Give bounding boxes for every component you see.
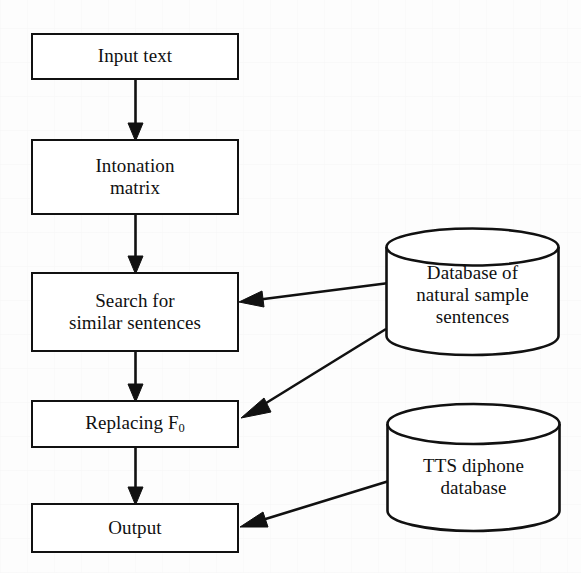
node-search-similar-sentences-label: Search for similar sentences xyxy=(69,290,201,334)
edge-input-to-intonation xyxy=(128,80,143,141)
node-replacing-f0-label: Replacing F0 xyxy=(85,412,185,436)
node-search-similar-sentences[interactable]: Search for similar sentences xyxy=(31,272,239,352)
flowchart-canvas: Input text Intonation matrix Search for … xyxy=(0,0,581,573)
node-input-text-label: Input text xyxy=(98,45,172,67)
node-input-text[interactable]: Input text xyxy=(31,33,239,80)
node-replacing-f0[interactable]: Replacing F0 xyxy=(31,400,239,448)
node-database-natural-sample-sentences[interactable]: Database of natural sample sentences xyxy=(384,228,561,355)
node-intonation-matrix-label: Intonation matrix xyxy=(95,155,174,199)
edge-sentencedb-to-search xyxy=(239,283,389,307)
node-tts-diphone-database-label: TTS diphone database xyxy=(385,455,562,499)
node-intonation-matrix[interactable]: Intonation matrix xyxy=(31,139,239,215)
node-output-label: Output xyxy=(108,517,161,539)
edge-sentencedb-to-replacing xyxy=(241,329,386,418)
node-output[interactable]: Output xyxy=(31,503,239,553)
node-replacing-f0-subscript: 0 xyxy=(179,421,185,435)
edge-intonation-to-search xyxy=(128,215,143,274)
node-replacing-f0-base: Replacing F xyxy=(85,412,178,433)
node-tts-diphone-database[interactable]: TTS diphone database xyxy=(385,403,562,533)
edge-replacing-to-output xyxy=(128,448,143,505)
edge-diphonedb-to-output xyxy=(240,481,389,527)
edge-search-to-replacing xyxy=(128,352,143,402)
node-database-natural-sample-sentences-label: Database of natural sample sentences xyxy=(384,262,561,328)
